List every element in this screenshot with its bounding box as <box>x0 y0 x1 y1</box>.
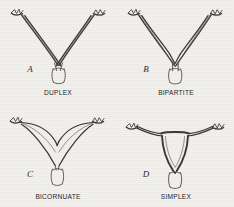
panel-a-letter: A <box>26 64 33 74</box>
panel-b-letter: B <box>143 64 149 74</box>
right-cornu-lumen <box>59 123 92 152</box>
uterus-types-figure: A DUPLEX <box>0 0 234 207</box>
right-horn-outer <box>59 15 94 66</box>
panel-a-caption: DUPLEX <box>44 89 72 96</box>
panel-b-bipartite: B BIPARTITE <box>128 9 222 96</box>
panel-d-caption: SIMPLEX <box>161 193 192 200</box>
panel-d-letter: D <box>142 169 150 179</box>
duplex-body-right <box>60 63 62 71</box>
panel-b-caption: BIPARTITE <box>158 89 194 96</box>
cervix-outline <box>169 68 182 84</box>
right-horn-inner <box>56 16 91 66</box>
body-cavity-right <box>175 137 184 168</box>
panel-c-bicornuate: C BICORNUATE <box>10 117 104 200</box>
cervix-outline <box>51 169 64 186</box>
body-left-wall <box>162 136 173 171</box>
fimbria-icon <box>128 9 140 15</box>
left-cornu-lateral <box>22 124 56 165</box>
panel-c-caption: BICORNUATE <box>35 193 81 200</box>
right-horn-inner <box>180 16 208 55</box>
cervix-outline <box>169 172 182 189</box>
fimbria-icon <box>212 124 224 129</box>
left-tube-lower <box>138 128 163 136</box>
fimbria-icon <box>210 10 222 15</box>
panel-a-duplex: A DUPLEX <box>11 9 105 96</box>
fundus-top <box>161 132 189 133</box>
panel-c-letter: C <box>27 169 34 179</box>
right-horn-lumen <box>58 15 93 65</box>
left-horn-inner <box>142 16 170 55</box>
fundal-cleft <box>56 142 59 146</box>
body-cavity-left <box>166 137 176 168</box>
right-cornu-lateral <box>59 124 93 165</box>
fimbria-icon <box>93 10 105 15</box>
left-cornu-lumen <box>23 123 55 152</box>
fimbria-icon <box>126 123 138 129</box>
diagram-canvas: A DUPLEX <box>0 0 234 207</box>
left-horn-inner <box>25 16 61 66</box>
bicornuate-body-right <box>58 166 59 170</box>
left-horn-outer <box>22 15 59 66</box>
body-right-wall <box>177 136 188 171</box>
right-tube-lower <box>188 128 213 136</box>
fimbria-icon <box>11 9 23 15</box>
panel-d-simplex: D SIMPLEX <box>126 123 224 200</box>
cervix-outline <box>52 68 65 84</box>
left-horn-lumen <box>23 15 59 65</box>
